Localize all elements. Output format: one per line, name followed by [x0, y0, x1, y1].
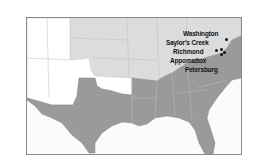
label-washington: Washington [183, 31, 218, 37]
label-saylors-creek: Saylor's Creek [166, 40, 209, 46]
marker-petersburg [220, 53, 223, 56]
marker-washington [225, 38, 228, 41]
marker-richmond [215, 49, 218, 52]
map-frame: Washington Saylor's Creek Richmond Appom… [26, 17, 242, 155]
label-richmond: Richmond [173, 49, 203, 55]
marker-appomattox [223, 51, 226, 54]
label-appomattox: Appomattox [170, 58, 206, 64]
label-petersburg: Petersburg [185, 67, 218, 73]
